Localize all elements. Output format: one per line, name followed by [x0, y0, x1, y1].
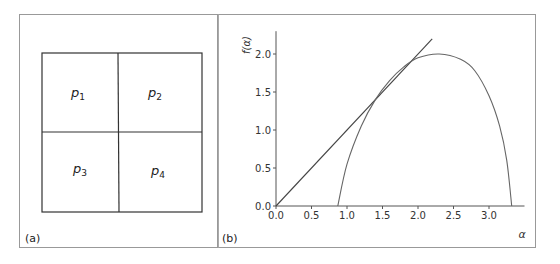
f-alpha-plot: 0.00.51.01.52.02.53.00.00.51.01.52.0αf(α… — [219, 15, 535, 247]
grid-diagram: p1 p2 p3 p4 — [20, 15, 217, 247]
panel-b-label: (b) — [222, 232, 238, 245]
y-tick-label: 2.0 — [255, 49, 271, 60]
panel-b: 0.00.51.01.52.02.53.00.00.51.01.52.0αf(α… — [218, 14, 536, 248]
y-axis-label: f(α) — [241, 36, 252, 54]
cell-p2: p2 — [147, 85, 162, 102]
panel-a-label: (a) — [25, 232, 40, 245]
cell-p1: p1 — [70, 85, 85, 102]
panel-a: p1 p2 p3 p4 (a) — [19, 14, 218, 248]
f-alpha-curve — [338, 54, 512, 206]
x-axis-label: α — [519, 228, 527, 241]
tangent-line — [276, 39, 432, 206]
cell-p4: p4 — [150, 163, 165, 180]
x-tick-label: 0.5 — [304, 210, 320, 221]
y-tick-label: 1.0 — [255, 125, 271, 136]
x-tick-label: 3.0 — [481, 210, 497, 221]
x-tick-label: 1.5 — [375, 210, 391, 221]
y-tick-label: 0.0 — [255, 201, 271, 212]
x-tick-label: 2.5 — [446, 210, 462, 221]
x-tick-label: 1.0 — [339, 210, 355, 221]
x-tick-label: 2.0 — [410, 210, 426, 221]
y-tick-label: 0.5 — [255, 163, 271, 174]
cell-p3: p3 — [72, 161, 87, 178]
y-tick-label: 1.5 — [255, 87, 271, 98]
